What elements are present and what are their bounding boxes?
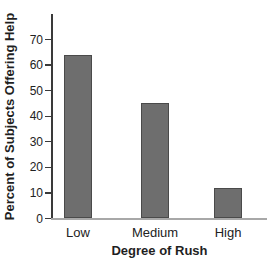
bar-high (214, 188, 242, 219)
y-tick-mark-50 (45, 90, 51, 91)
y-tick-mark-20 (45, 167, 51, 168)
y-tick-label-0: 0 (17, 212, 43, 226)
y-tick-mark-70 (45, 39, 51, 40)
y-tick-mark-60 (45, 64, 51, 65)
y-tick-label-20: 20 (17, 160, 43, 174)
y-axis-title: Percent of Subjects Offering Help (3, 13, 18, 220)
bar-chart: Percent of Subjects Offering Help 010203… (0, 0, 267, 268)
y-tick-mark-30 (45, 141, 51, 142)
x-tick-label-high: High (196, 225, 260, 240)
y-tick-label-50: 50 (17, 84, 43, 98)
x-tick-label-low: Low (46, 225, 110, 240)
y-axis-line (51, 14, 53, 219)
y-tick-label-40: 40 (17, 109, 43, 123)
y-tick-label-70: 70 (17, 33, 43, 47)
y-tick-label-60: 60 (17, 58, 43, 72)
bar-medium (141, 103, 169, 218)
y-tick-label-30: 30 (17, 135, 43, 149)
y-tick-mark-0 (45, 218, 51, 219)
x-axis-title: Degree of Rush (52, 243, 267, 258)
bar-low (64, 55, 92, 219)
x-tick-label-medium: Medium (123, 225, 187, 240)
y-tick-mark-40 (45, 116, 51, 117)
y-tick-label-10: 10 (17, 186, 43, 200)
y-tick-mark-10 (45, 192, 51, 193)
